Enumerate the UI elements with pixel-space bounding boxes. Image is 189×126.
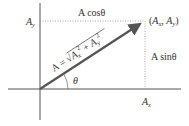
label-endpoint: (Ax, Ay) [149, 15, 179, 27]
magnitude-formula: A = √Ax2 + Ay2 [48, 27, 111, 75]
angle-arc [64, 74, 69, 89]
label-a-sin-theta: A sinθ [151, 51, 177, 62]
label-ay: Ay [25, 16, 35, 28]
vector-diagram: Ay A cosθ (Ax, Ay) A sinθ Ax θ A = √Ax2 … [0, 0, 189, 126]
label-theta: θ [73, 75, 78, 86]
vector-arrow [40, 24, 140, 89]
label-ax: Ax [141, 96, 151, 108]
label-a-cos-theta: A cosθ [78, 7, 106, 18]
